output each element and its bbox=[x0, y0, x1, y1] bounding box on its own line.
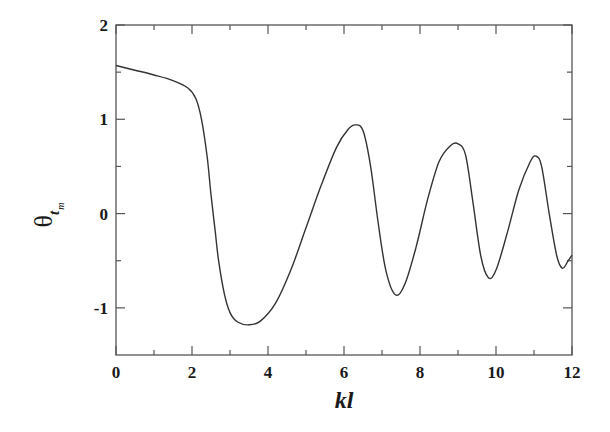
x-axis-label: kl bbox=[335, 387, 354, 413]
y-tick-labels: -1012 bbox=[94, 16, 108, 318]
svg-text:θtm: θtm bbox=[29, 203, 66, 228]
data-line bbox=[116, 66, 572, 325]
x-tick-label: 6 bbox=[340, 363, 349, 382]
y-tick-label: 2 bbox=[100, 16, 109, 35]
line-chart: 024681012 -1012 kl θtm bbox=[0, 0, 610, 432]
x-tick-label: 10 bbox=[488, 363, 505, 382]
x-tick-label: 12 bbox=[564, 363, 581, 382]
y-tick-label: 1 bbox=[100, 110, 109, 129]
y-label-theta: θ bbox=[29, 215, 58, 227]
y-tick-label: -1 bbox=[94, 299, 108, 318]
y-label-subsub: m bbox=[55, 203, 66, 210]
axis-ticks bbox=[116, 25, 572, 355]
plot-border bbox=[116, 25, 572, 355]
y-tick-label: 0 bbox=[100, 205, 109, 224]
x-tick-label: 8 bbox=[416, 363, 425, 382]
x-tick-label: 4 bbox=[264, 363, 273, 382]
plot-frame bbox=[116, 25, 572, 355]
x-tick-label: 0 bbox=[112, 363, 121, 382]
x-tick-labels: 024681012 bbox=[112, 363, 581, 382]
x-tick-label: 2 bbox=[188, 363, 197, 382]
y-axis-label: θtm bbox=[29, 203, 66, 228]
